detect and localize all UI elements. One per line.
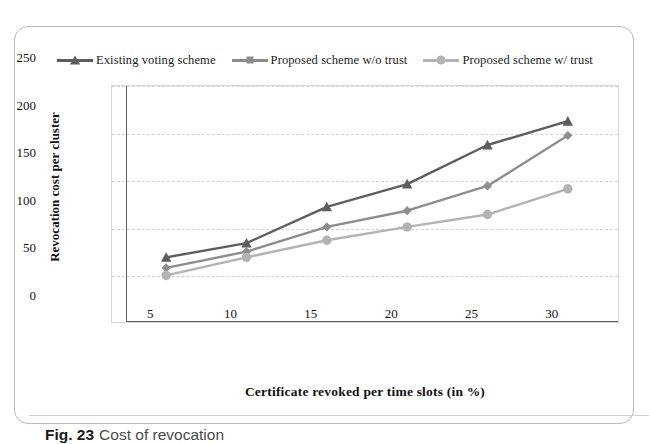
x-tick-label: 5 <box>130 306 170 322</box>
x-tick-label: 15 <box>291 306 331 322</box>
x-tick-label: 20 <box>371 306 411 322</box>
x-tick-label: 25 <box>452 306 492 322</box>
x-tick-label: 30 <box>532 306 572 322</box>
x-tick-label: 10 <box>211 306 251 322</box>
